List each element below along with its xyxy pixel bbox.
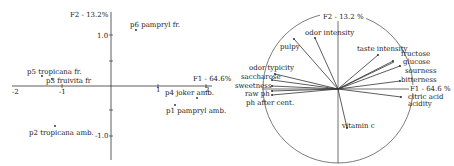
- f1-axis-label: F1 - 64.6%: [193, 75, 232, 83]
- f1-axis-label: F1 - 64.6 %: [410, 85, 451, 93]
- point-label-p4: p4 joker amb.: [165, 89, 214, 97]
- var-fructose: fructose: [401, 50, 430, 58]
- var-ph-after-cent: ph after cent.: [246, 99, 294, 107]
- var-odor-typicity: odor typicity: [249, 64, 294, 72]
- f2-axis-label: F2 - 13.2%: [70, 11, 109, 19]
- y-tick-1: 1.0: [97, 32, 108, 40]
- point-label-p5: p5 tropicana fr.: [27, 68, 82, 76]
- var-bitterness: bitterness: [401, 76, 437, 84]
- var-sweetness: sweetness: [235, 82, 272, 90]
- point-label-p6: p6 pampryl fr.: [130, 21, 180, 29]
- var-raw-ph: raw ph: [245, 90, 270, 98]
- var-saccharose: saccharose: [241, 73, 281, 81]
- var-vitamin-c: vitamin c: [341, 122, 375, 130]
- var-acidity: acidity: [408, 100, 432, 108]
- point-label-p1: p1 pampryl amb.: [166, 107, 226, 115]
- f2-axis-label: F2 - 13.2 %: [323, 13, 364, 21]
- figure: -2 -1 1 2 1.0 -1.0 F2 - 13.2% F1 - 64.6%…: [0, 0, 454, 166]
- individuals-plot: -2 -1 1 2 1.0 -1.0 F2 - 13.2% F1 - 64.6%…: [12, 11, 232, 160]
- correlation-circle-plot: F2 - 13.2 % F1 - 64.6 %: [235, 12, 453, 163]
- var-odor-intensity: odor intensity: [305, 29, 354, 37]
- y-tick-minus-1: -1.0: [95, 132, 109, 140]
- var-pulpy: pulpy: [280, 43, 300, 51]
- var-glucose: glucose: [403, 58, 430, 66]
- point-label-p3: p3 fruivita fr: [46, 77, 92, 85]
- x-tick-1: 1: [156, 86, 160, 94]
- x-tick-minus-2: -2: [12, 88, 19, 96]
- x-tick-minus-1: -1: [59, 88, 66, 96]
- var-sourness: sourness: [405, 67, 437, 75]
- point-label-p2: p2 tropicana amb.: [29, 129, 94, 137]
